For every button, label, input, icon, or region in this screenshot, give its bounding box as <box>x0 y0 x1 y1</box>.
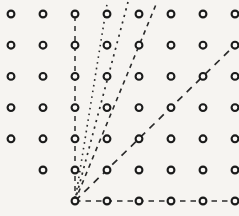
lattice-figure <box>0 0 239 216</box>
lattice-point <box>200 11 207 18</box>
lattice-point <box>200 104 207 111</box>
lattice-point <box>40 11 47 18</box>
lattice-point <box>168 73 175 80</box>
lattice-point <box>200 73 207 80</box>
lattice-point <box>200 198 207 205</box>
lattice-point <box>104 42 111 49</box>
lattice-point <box>136 73 143 80</box>
lattice-point <box>136 167 143 174</box>
lattice-point <box>200 42 207 49</box>
lattice-point <box>104 198 111 205</box>
lattice-point <box>232 42 239 49</box>
lattice-point <box>104 73 111 80</box>
lattice-point <box>200 135 207 142</box>
lattice-point <box>104 167 111 174</box>
lattice-canvas <box>0 0 239 216</box>
lattice-point <box>232 167 239 174</box>
lattice-point <box>168 104 175 111</box>
lattice-point <box>200 167 207 174</box>
lattice-point <box>8 11 15 18</box>
lattice-point <box>168 42 175 49</box>
lattice-point <box>168 11 175 18</box>
lattice-point <box>40 135 47 142</box>
lattice-point <box>40 42 47 49</box>
lattice-point <box>168 135 175 142</box>
lattice-point <box>40 73 47 80</box>
lattice-point <box>104 11 111 18</box>
lattice-point <box>136 104 143 111</box>
lattice-point <box>8 73 15 80</box>
lattice-point <box>232 73 239 80</box>
lattice-point <box>72 198 79 205</box>
lattice-point <box>136 42 143 49</box>
lattice-point <box>40 104 47 111</box>
lattice-point <box>232 198 239 205</box>
lattice-point <box>232 135 239 142</box>
lattice-point <box>40 167 47 174</box>
lattice-point <box>136 135 143 142</box>
lattice-point <box>72 167 79 174</box>
lattice-point <box>72 11 79 18</box>
lattice-point <box>72 135 79 142</box>
lattice-point <box>232 11 239 18</box>
lattice-point <box>232 104 239 111</box>
lattice-point <box>72 104 79 111</box>
lattice-point <box>136 198 143 205</box>
lattice-point <box>168 198 175 205</box>
lattice-point <box>8 135 15 142</box>
lattice-point <box>104 104 111 111</box>
lattice-point <box>168 167 175 174</box>
lattice-point <box>104 135 111 142</box>
lattice-point <box>136 11 143 18</box>
lattice-point <box>8 104 15 111</box>
lattice-point <box>72 73 79 80</box>
lattice-point <box>8 42 15 49</box>
lattice-point <box>72 42 79 49</box>
